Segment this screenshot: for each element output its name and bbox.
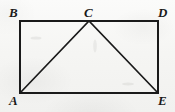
geometry-figure: B C D A E (0, 0, 175, 112)
scan-artifacts (31, 36, 135, 85)
vertex-label-e: E (158, 94, 167, 107)
vertex-label-a: A (9, 94, 18, 107)
rectangle-ABDE (20, 21, 158, 93)
triangle-ACE (20, 21, 158, 93)
vertex-label-b: B (9, 6, 18, 19)
vertex-label-c: C (84, 6, 93, 19)
vertex-label-d: D (158, 6, 167, 19)
